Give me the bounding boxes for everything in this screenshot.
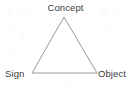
vertex-label-concept: Concept bbox=[0, 2, 131, 13]
edge-concept-object bbox=[64, 17, 97, 73]
vertex-label-sign: Sign bbox=[5, 68, 24, 79]
vertex-label-object: Object bbox=[98, 68, 126, 79]
semiotic-triangle-diagram: Concept Sign Object bbox=[0, 0, 131, 92]
edge-sign-concept bbox=[32, 17, 64, 73]
